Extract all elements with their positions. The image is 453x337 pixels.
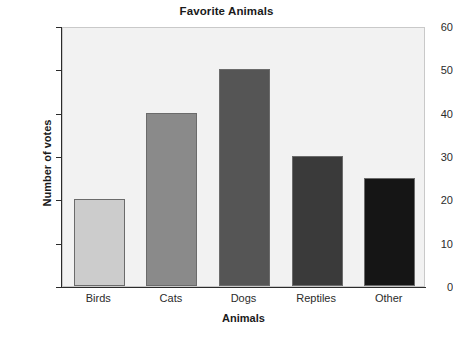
bar-reptiles — [292, 156, 343, 286]
bar-dogs — [219, 69, 270, 286]
x-tick-label-other: Other — [352, 292, 425, 304]
x-tick-label-dogs: Dogs — [207, 292, 280, 304]
y-tick-label: 40 — [401, 108, 453, 120]
bar-cats — [146, 113, 197, 286]
y-tick-label: 60 — [401, 21, 453, 33]
bars-layer — [63, 28, 424, 286]
x-tick-label-cats: Cats — [135, 292, 208, 304]
y-tick-mark — [56, 287, 61, 288]
x-axis-line — [61, 287, 426, 288]
y-tick-label: 20 — [401, 194, 453, 206]
x-axis-label: Animals — [62, 312, 425, 324]
bar-birds — [74, 199, 125, 286]
y-tick-mark — [56, 157, 61, 158]
y-tick-mark — [56, 244, 61, 245]
bar-chart-figure: Favorite Animals 0102030405060 Number of… — [0, 0, 453, 337]
x-tick-label-birds: Birds — [62, 292, 135, 304]
y-tick-label: 10 — [401, 238, 453, 250]
y-tick-mark — [56, 114, 61, 115]
y-tick-label: 50 — [401, 64, 453, 76]
y-tick-mark — [56, 27, 61, 28]
y-axis-line — [61, 27, 62, 288]
chart-title: Favorite Animals — [0, 5, 453, 17]
y-axis-label: Number of votes — [41, 83, 53, 243]
y-tick-mark — [56, 70, 61, 71]
plot-area — [62, 27, 425, 287]
y-tick-mark — [56, 200, 61, 201]
y-tick-label: 30 — [401, 151, 453, 163]
x-tick-label-reptiles: Reptiles — [280, 292, 353, 304]
